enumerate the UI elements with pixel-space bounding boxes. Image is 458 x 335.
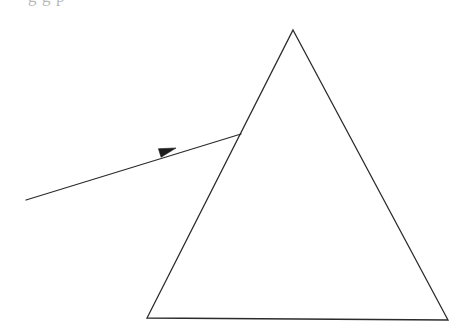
diagram-background — [0, 0, 458, 335]
figure-root: Light ray incident on a triangular prism… — [0, 0, 458, 335]
prism-ray-diagram: Light ray incident on a triangular prism — [0, 0, 458, 335]
